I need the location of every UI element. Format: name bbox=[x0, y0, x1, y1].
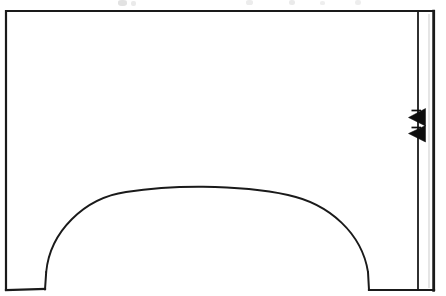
page-background bbox=[0, 0, 446, 296]
right-arch-springing-stub bbox=[368, 272, 369, 290]
left-pier-base bbox=[6, 289, 45, 290]
elevation-drawing bbox=[0, 0, 446, 296]
left-arch-springing-stub bbox=[45, 272, 46, 290]
drawing-canvas bbox=[0, 0, 446, 296]
